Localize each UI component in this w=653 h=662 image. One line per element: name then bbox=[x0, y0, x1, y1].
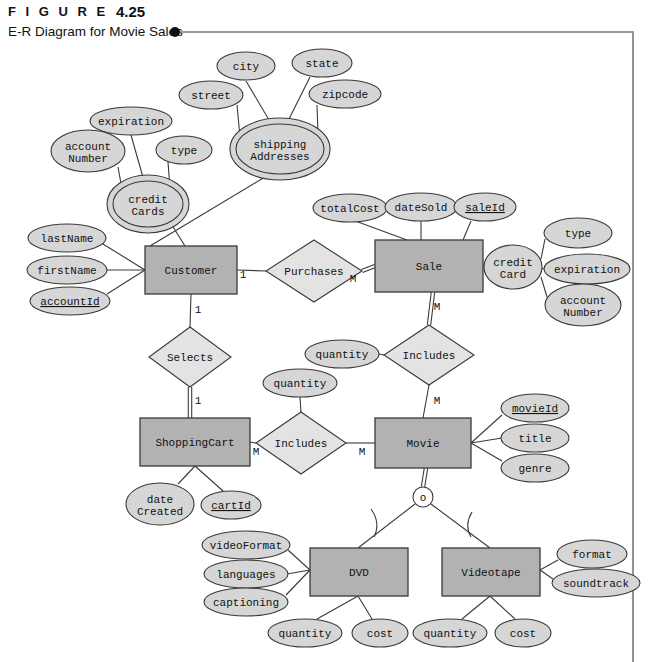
relationship-label-purchases: Purchases bbox=[284, 266, 343, 278]
link-videotape-soundtrack bbox=[540, 570, 553, 579]
link-shoppingcart-includes bbox=[250, 442, 256, 443]
entity-label-shoppingcart: ShoppingCart bbox=[155, 437, 234, 449]
attribute-label-expiration1: expiration bbox=[98, 116, 164, 128]
attribute-label-street: street bbox=[191, 90, 231, 102]
relationship-label-selects: Selects bbox=[167, 352, 213, 364]
link-cost-dvd bbox=[358, 596, 372, 619]
attribute-label-shippingaddr: shippingAddresses bbox=[250, 139, 309, 164]
link-lastname-customer bbox=[103, 244, 145, 270]
attribute-label-zipcode: zipcode bbox=[322, 89, 368, 101]
attribute-label-format: format bbox=[572, 549, 612, 561]
link-quantity-dvd bbox=[317, 596, 358, 619]
attribute-label-saleid: saleId bbox=[465, 202, 505, 214]
cardinality-card-cart-inc: M bbox=[253, 446, 260, 458]
attribute-label-qty-cart: quantity bbox=[274, 378, 327, 390]
attribute-label-vhs-qty: quantity bbox=[424, 628, 477, 640]
link-customer-selects bbox=[190, 294, 191, 327]
link-accountid-customer bbox=[107, 270, 145, 294]
link-saleid-sale bbox=[463, 221, 471, 240]
attribute-label-captioning: captioning bbox=[213, 597, 279, 609]
er-diagram-svg: citystatestreetzipcodeshippingAddressese… bbox=[0, 0, 653, 662]
attribute-label-type2: type bbox=[565, 228, 591, 240]
attribute-label-videoformat: videoFormat bbox=[210, 540, 283, 552]
figure-bullet bbox=[170, 27, 180, 37]
cardinality-card-inc-mov2: M bbox=[359, 446, 366, 458]
attribute-label-title: title bbox=[518, 433, 551, 445]
link-quantity-videotape bbox=[462, 596, 490, 619]
attribute-label-dvd-cost: cost bbox=[367, 628, 393, 640]
link-datecreated-shoppingcart bbox=[178, 466, 195, 484]
subset-arc-dvd bbox=[371, 509, 377, 537]
attribute-label-accountnum1: accountNumber bbox=[65, 141, 111, 166]
entity-label-movie: Movie bbox=[406, 438, 439, 450]
link-cost-videotape bbox=[490, 596, 515, 619]
link-cartid-shoppingcart bbox=[195, 466, 223, 491]
attribute-label-lastname: lastName bbox=[41, 233, 94, 245]
cardinality-card-inc-movie: M bbox=[434, 395, 441, 407]
link-expiration-creditcards bbox=[131, 135, 144, 181]
entity-label-customer: Customer bbox=[165, 265, 218, 277]
attribute-label-firstname: firstName bbox=[37, 265, 96, 277]
attribute-label-dvd-qty: quantity bbox=[279, 628, 332, 640]
link-creditcard-accountnumber bbox=[541, 277, 547, 297]
cardinality-card-cust-purch: 1 bbox=[240, 269, 247, 281]
link-videotape-format bbox=[540, 560, 558, 570]
entity-label-dvd: DVD bbox=[349, 567, 369, 579]
attribute-label-languages: languages bbox=[216, 569, 275, 581]
cardinality-card-sel-cart: 1 bbox=[195, 395, 202, 407]
link-movie-genre bbox=[471, 443, 502, 461]
attribute-label-state: state bbox=[305, 58, 338, 70]
attribute-label-city: city bbox=[233, 61, 260, 73]
link-videoformat-dvd bbox=[288, 550, 310, 570]
cardinality-card-purch-sale: M bbox=[350, 273, 357, 285]
figure-canvas: F I G U R E 4.25 E-R Diagram for Movie S… bbox=[0, 0, 653, 662]
link-quantity-includes-cart bbox=[300, 397, 301, 412]
attribute-label-movieid: movieId bbox=[512, 403, 558, 415]
attribute-label-vhs-cost: cost bbox=[510, 628, 536, 640]
entity-label-sale: Sale bbox=[416, 261, 442, 273]
attribute-label-soundtrack: soundtrack bbox=[563, 578, 629, 590]
link-specialization-videotape bbox=[431, 504, 490, 548]
attribute-label-accountid: accountId bbox=[40, 296, 99, 308]
relationship-label-includes-cart: Includes bbox=[275, 438, 328, 450]
relationship-label-includes-sale: Includes bbox=[403, 350, 456, 362]
attribute-label-qty-sale: quantity bbox=[316, 349, 369, 361]
attribute-label-datesold: dateSold bbox=[395, 202, 448, 214]
link-movie-specialization-b bbox=[425, 468, 428, 487]
specialization-label: o bbox=[420, 492, 427, 504]
link-totalcost-sale bbox=[358, 222, 407, 240]
attribute-label-creditcards: creditCards bbox=[128, 194, 168, 219]
attribute-label-type1: type bbox=[171, 145, 197, 157]
cardinality-card-cust-sel: 1 bbox=[195, 304, 202, 316]
attribute-label-expiration2: expiration bbox=[554, 264, 620, 276]
link-specialization-dvd bbox=[358, 504, 415, 548]
entity-label-videotape: Videotape bbox=[461, 567, 520, 579]
attribute-label-cartid: cartId bbox=[211, 500, 251, 512]
cardinality-card-sale-inc: M bbox=[434, 301, 441, 313]
link-includes-movie bbox=[423, 385, 429, 418]
link-sale-includes-a bbox=[427, 292, 431, 325]
link-creditcard-type bbox=[541, 239, 545, 259]
attribute-label-accountnum2: accountNumber bbox=[560, 295, 606, 320]
attribute-label-genre: genre bbox=[518, 463, 551, 475]
link-movie-specialization-a bbox=[421, 468, 424, 487]
link-state-shipping bbox=[286, 77, 310, 125]
attribute-label-totalcost: totalCost bbox=[320, 203, 379, 215]
